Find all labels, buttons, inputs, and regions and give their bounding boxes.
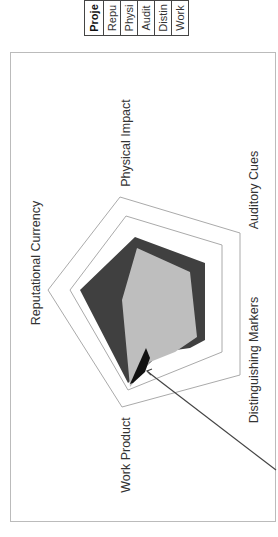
axis-label-work: Work Product — [119, 417, 133, 493]
axis-label-distinguishing: Distinguishing Markers — [247, 297, 261, 423]
axis-label-reputational: Reputational Currency — [29, 201, 43, 325]
axis-label-auditory: Auditory Cues — [247, 151, 261, 230]
axis-label-physical: Physical Impact — [119, 99, 133, 187]
